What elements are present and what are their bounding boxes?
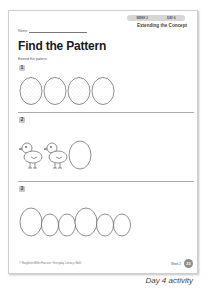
footer-copyright: © Houghton Mifflin Harcourt • Everyday L… [19, 262, 81, 265]
small-egg-icon [59, 214, 76, 236]
big-egg-icon [75, 208, 97, 236]
footer-week: Week 2 [171, 262, 181, 266]
page-title: Find the Pattern [18, 39, 106, 53]
day-label: DAY 4 [167, 16, 176, 20]
pattern-1-image [18, 75, 138, 107]
week-day-badge: WEEK 2 DAY 4 [127, 15, 185, 21]
caption: Day 4 activity [145, 276, 193, 285]
worksheet-page: WEEK 2 DAY 4 Extending the Concept Name … [8, 10, 198, 274]
speckled-egg-icon [68, 78, 90, 105]
divider [18, 112, 194, 113]
plain-egg-icon [92, 78, 114, 105]
speckled-egg-icon [20, 78, 42, 105]
egg-icon [69, 141, 91, 169]
small-egg-icon [114, 214, 131, 236]
chick-icon [44, 143, 67, 168]
name-line [29, 28, 87, 33]
page-number-badge: 23 [184, 259, 193, 268]
pattern-3-image [18, 205, 148, 239]
instruction-text: Extend the pattern. [18, 57, 48, 61]
pattern-2-image [18, 139, 98, 175]
divider [18, 181, 194, 182]
week-label: WEEK 2 [136, 16, 148, 20]
big-egg-icon [20, 208, 42, 236]
problem-number-2: 2 [19, 117, 25, 123]
problem-number-1: 1 [19, 65, 25, 71]
plain-egg-icon [44, 78, 66, 105]
small-egg-icon [97, 214, 114, 236]
name-label: Name [18, 29, 27, 33]
concept-heading: Extending the Concept [137, 23, 187, 28]
problem-number-3: 3 [19, 186, 25, 192]
name-field: Name [18, 28, 87, 33]
small-egg-icon [42, 214, 59, 236]
chick-icon [19, 143, 42, 168]
